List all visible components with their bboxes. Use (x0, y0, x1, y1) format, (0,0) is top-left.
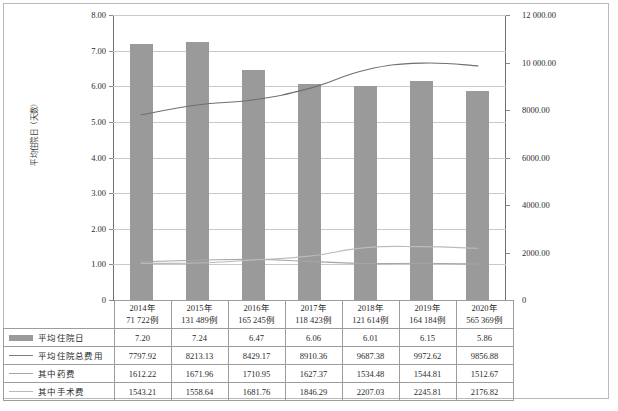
y-tick-label-left: 1.00 (91, 259, 106, 269)
table-row: 平均住院总费用7797.928213.138429.178910.369687.… (4, 347, 514, 365)
legend-row-label: 其中手术费 (4, 383, 115, 401)
y-tick-label-right: 6000.00 (522, 153, 550, 163)
tick-mark (506, 158, 510, 159)
table-header-cell: 2017年118 423例 (285, 301, 342, 329)
legend-line-swatch-icon (9, 391, 33, 392)
header-case-count: 121 614例 (343, 315, 399, 327)
table-cell: 9856.88 (456, 347, 513, 365)
table-cell: 6.06 (285, 329, 342, 347)
plot-box (113, 15, 506, 300)
tick-mark (506, 15, 510, 16)
table-cell: 1671.96 (171, 365, 228, 383)
table-header-row: 2014年71 722例2015年131 489例2016年165 245例20… (4, 301, 514, 329)
table-cell: 9687.38 (342, 347, 399, 365)
table-cell: 1710.95 (228, 365, 285, 383)
table-cell: 8910.36 (285, 347, 342, 365)
tick-mark (506, 205, 510, 206)
legend-line-swatch-icon (9, 355, 33, 356)
table-corner-cell (4, 301, 115, 329)
legend-label-text: 其中药费 (38, 369, 75, 379)
table-header-cell: 2015年131 489例 (171, 301, 228, 329)
y-tick-label-left: 7.00 (91, 46, 106, 56)
table-cell: 1612.22 (114, 365, 171, 383)
legend-row-label: 其中药费 (4, 365, 115, 383)
y-tick-label-left: 6.00 (91, 81, 106, 91)
header-case-count: 71 722例 (115, 315, 171, 327)
y-tick-label-left: 5.00 (91, 117, 106, 127)
y-tick-label-right: 2000.00 (522, 248, 550, 258)
table-cell: 2176.82 (456, 383, 513, 401)
table-row: 其中药费1612.221671.961710.951627.371534.481… (4, 365, 514, 383)
chart-area: 平均住院日（天数） 01.002.003.004.005.006.007.008… (0, 0, 618, 300)
table-cell: 2207.03 (342, 383, 399, 401)
y-tick-label-right: 0 (522, 295, 526, 305)
tick-mark (506, 63, 510, 64)
y-tick-label-left: 4.00 (91, 153, 106, 163)
table-cell: 1627.37 (285, 365, 342, 383)
header-year: 2014年 (115, 303, 171, 315)
header-year: 2019年 (400, 303, 456, 315)
tick-mark (506, 253, 510, 254)
table-cell: 5.86 (456, 329, 513, 347)
table-cell: 1846.29 (285, 383, 342, 401)
table-cell: 8213.13 (171, 347, 228, 365)
y-tick-label-right: 4000.00 (522, 200, 550, 210)
header-year: 2015年 (172, 303, 228, 315)
table-cell: 1544.81 (399, 365, 456, 383)
y-tick-label-left: 2.00 (91, 224, 106, 234)
header-case-count: 118 423例 (286, 315, 342, 327)
table-header-cell: 2019年164 184例 (399, 301, 456, 329)
table-cell: 8429.17 (228, 347, 285, 365)
table-header-cell: 2016年165 245例 (228, 301, 285, 329)
table-row: 平均住院日7.207.246.476.066.016.155.86 (4, 329, 514, 347)
table-cell: 7.20 (114, 329, 171, 347)
header-year: 2018年 (343, 303, 399, 315)
legend-bar-swatch-icon (9, 335, 33, 341)
data-table: 2014年71 722例2015年131 489例2016年165 245例20… (3, 300, 514, 401)
table-cell: 2245.81 (399, 383, 456, 401)
table-header-cell: 2018年121 614例 (342, 301, 399, 329)
tick-mark (506, 110, 510, 111)
table-cell: 1512.67 (456, 365, 513, 383)
table-cell: 6.01 (342, 329, 399, 347)
table-cell: 6.47 (228, 329, 285, 347)
table-cell: 1681.76 (228, 383, 285, 401)
table-header-cell: 2020年565 369例 (456, 301, 513, 329)
header-case-count: 565 369例 (457, 315, 513, 327)
legend-row-label: 平均住院总费用 (4, 347, 115, 365)
table-row: 其中手术费1543.211558.641681.761846.292207.03… (4, 383, 514, 401)
table-cell: 7797.92 (114, 347, 171, 365)
table-cell: 9972.62 (399, 347, 456, 365)
y-axis-title: 平均住院日（天数） (30, 58, 39, 208)
line-path (141, 63, 478, 115)
legend-line-swatch-icon (9, 373, 33, 374)
chart-page: 平均住院日（天数） 01.002.003.004.005.006.007.008… (0, 0, 618, 411)
y-tick-label-right: 12 000.00 (522, 10, 556, 20)
legend-label-text: 平均住院日 (38, 333, 85, 343)
header-case-count: 164 184例 (400, 315, 456, 327)
table-cell: 1543.21 (114, 383, 171, 401)
header-year: 2016年 (229, 303, 285, 315)
table-cell: 1558.64 (171, 383, 228, 401)
legend-label-text: 其中手术费 (38, 387, 85, 397)
legend-label-text: 平均住院总费用 (38, 351, 103, 361)
table-cell: 1534.48 (342, 365, 399, 383)
y-tick-label-right: 8000.00 (522, 105, 550, 115)
header-case-count: 131 489例 (172, 315, 228, 327)
line-series (113, 15, 506, 300)
y-axis-right-ticks: 02000.004000.006000.008000.0010 000.0012… (514, 0, 584, 300)
y-tick-label-right: 10 000.00 (522, 58, 556, 68)
y-tick-label-left: 8.00 (91, 10, 106, 20)
y-tick-label-left: 3.00 (91, 188, 106, 198)
y-axis-left-ticks: 01.002.003.004.005.006.007.008.00 (66, 0, 110, 300)
legend-row-label: 平均住院日 (4, 329, 115, 347)
header-year: 2020年 (457, 303, 513, 315)
table-header-cell: 2014年71 722例 (114, 301, 171, 329)
table-cell: 6.15 (399, 329, 456, 347)
header-case-count: 165 245例 (229, 315, 285, 327)
table-cell: 7.24 (171, 329, 228, 347)
header-year: 2017年 (286, 303, 342, 315)
